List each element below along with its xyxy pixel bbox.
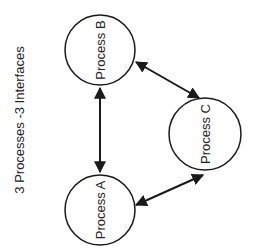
node-process-a: Process A	[65, 175, 135, 245]
node-process-b: Process B	[65, 15, 135, 85]
diagram-title: 3 Processes -3 Interfaces	[12, 46, 27, 194]
node-label-c: Process C	[198, 104, 213, 164]
edge-b-c	[136, 62, 199, 98]
node-label-a: Process A	[93, 180, 108, 239]
node-process-c: Process C	[169, 98, 241, 170]
node-label-b: Process B	[93, 20, 108, 79]
edge-a-c	[136, 175, 203, 205]
process-diagram: 3 Processes -3 Interfaces Process B Proc…	[0, 0, 258, 251]
